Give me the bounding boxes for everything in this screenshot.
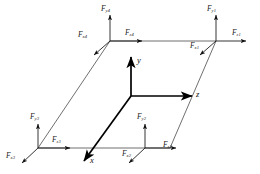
force-label-z3: Fz3 — [52, 136, 61, 144]
force-label-x3: Fx3 — [6, 152, 15, 160]
force-label-z1: Fz1 — [232, 29, 241, 37]
axis-label-x: x — [90, 156, 94, 165]
diagram-canvas — [0, 0, 260, 174]
node3-forces — [22, 124, 70, 163]
axis-label-y: y — [137, 56, 141, 65]
force-label-x2: Fx2 — [122, 150, 131, 158]
force-label-y4: Fy4 — [101, 5, 110, 13]
force-label-z2: Fz2 — [163, 141, 172, 149]
force-label-y1: Fy1 — [207, 5, 216, 13]
force-diagram-figure: y z x Fy4 Fz4 Fx4 Fy1 Fz1 Fx1 Fy3 Fz3 Fx… — [0, 0, 260, 174]
force-label-y2: Fy2 — [137, 113, 146, 121]
force-label-z4: Fz4 — [125, 29, 134, 37]
axis-label-z: z — [196, 90, 199, 99]
axis-triad — [84, 57, 192, 161]
plane-outline — [38, 41, 216, 148]
force-label-x1: Fx1 — [190, 42, 199, 50]
force-label-y3: Fy3 — [30, 113, 39, 121]
force-label-x4: Fx4 — [78, 31, 87, 39]
node4-forces — [94, 15, 142, 55]
